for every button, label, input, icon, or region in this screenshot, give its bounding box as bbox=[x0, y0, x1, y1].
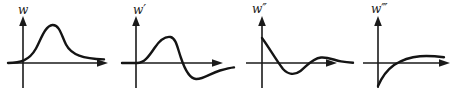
plot-panel-w-prime: w′ bbox=[113, 0, 240, 98]
axis-label-w-prime: w′ bbox=[133, 4, 146, 16]
plot-panel-w-double-prime: w″ bbox=[240, 0, 360, 98]
y-axis-arrow-w-triple-prime bbox=[374, 16, 382, 26]
plot-panel-w-triple-prime: w‴ bbox=[358, 0, 458, 98]
curve-w-double-prime bbox=[262, 38, 353, 74]
y-axis-arrow-w-prime bbox=[132, 16, 140, 26]
x-axis-arrow-w-triple-prime bbox=[439, 59, 450, 67]
plot-svg-w bbox=[0, 0, 112, 98]
axis-label-w: w bbox=[18, 4, 28, 16]
x-axis-arrow-w-prime bbox=[212, 59, 223, 67]
plot-panel-w: w bbox=[0, 0, 112, 98]
curve-w-triple-prime bbox=[378, 56, 444, 86]
y-axis-arrow-w bbox=[19, 16, 27, 26]
curve-w-prime bbox=[122, 37, 234, 79]
y-axis-arrow-w-double-prime bbox=[258, 16, 266, 26]
figure-derivative-sketches: w w′ w″ w‴ bbox=[0, 0, 458, 98]
axis-label-w-triple-prime: w‴ bbox=[371, 3, 388, 15]
axis-label-w-double-prime: w″ bbox=[252, 3, 267, 15]
